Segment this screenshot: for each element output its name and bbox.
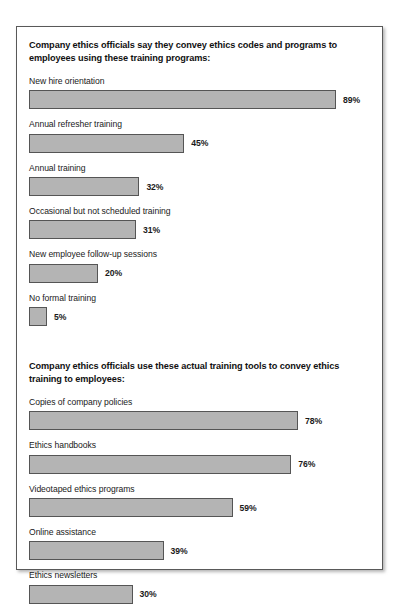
bar-value-label: 78% <box>305 416 322 426</box>
bar-value-label: 76% <box>298 459 315 469</box>
bar-line: 5% <box>29 307 370 326</box>
bar-value-label: 32% <box>146 182 163 192</box>
bar-category-label: Videotaped ethics programs <box>29 484 370 494</box>
bar-fill <box>29 264 98 283</box>
bar-line: 78% <box>29 411 370 430</box>
bar-row: No formal training5% <box>29 293 370 326</box>
bar-value-label: 39% <box>171 546 188 556</box>
section-divider-space <box>29 336 370 360</box>
bar-line: 45% <box>29 134 370 153</box>
bar-value-label: 30% <box>140 589 157 599</box>
bar-value-label: 5% <box>54 312 66 322</box>
bar-value-label: 20% <box>105 268 122 278</box>
bar-row: New employee follow-up sessions20% <box>29 249 370 282</box>
bar-line: 39% <box>29 541 370 560</box>
chart-section-training-tools: Company ethics officials use these actua… <box>29 360 370 604</box>
bar-row: Copies of company policies78% <box>29 397 370 430</box>
bar-fill <box>29 134 184 153</box>
bar-line: 89% <box>29 90 370 109</box>
bar-fill <box>29 585 133 604</box>
bar-fill <box>29 411 298 430</box>
bar-line: 32% <box>29 177 370 196</box>
bar-row: Occasional but not scheduled training31% <box>29 206 370 239</box>
bar-row: Annual refresher training45% <box>29 119 370 152</box>
bar-row: Annual training32% <box>29 163 370 196</box>
bar-category-label: New hire orientation <box>29 76 370 86</box>
bar-row: New hire orientation89% <box>29 76 370 109</box>
bar-value-label: 59% <box>240 503 257 513</box>
bar-fill <box>29 498 233 517</box>
bar-category-label: Annual training <box>29 163 370 173</box>
bar-category-label: Annual refresher training <box>29 119 370 129</box>
bar-value-label: 31% <box>143 225 160 235</box>
bar-category-label: New employee follow-up sessions <box>29 249 370 259</box>
bar-category-label: Online assistance <box>29 527 370 537</box>
bar-category-label: No formal training <box>29 293 370 303</box>
bar-row: Online assistance39% <box>29 527 370 560</box>
bar-category-label: Copies of company policies <box>29 397 370 407</box>
bar-category-label: Ethics handbooks <box>29 440 370 450</box>
bar-category-label: Occasional but not scheduled training <box>29 206 370 216</box>
bar-fill <box>29 177 139 196</box>
section-heading-training-tools: Company ethics officials use these actua… <box>29 360 349 386</box>
bar-line: 76% <box>29 455 370 474</box>
bar-group-training-programs: New hire orientation89%Annual refresher … <box>29 76 370 326</box>
bar-row: Ethics handbooks76% <box>29 440 370 473</box>
bar-fill <box>29 541 164 560</box>
bar-fill <box>29 307 47 326</box>
bar-fill <box>29 90 336 109</box>
bar-value-label: 45% <box>191 138 208 148</box>
bar-line: 59% <box>29 498 370 517</box>
bar-row: Videotaped ethics programs59% <box>29 484 370 517</box>
chart-panel: Company ethics officials say they convey… <box>16 26 383 570</box>
bar-category-label: Ethics newsletters <box>29 570 370 580</box>
bar-fill <box>29 455 291 474</box>
chart-section-training-programs: Company ethics officials say they convey… <box>29 39 370 326</box>
chart-body: Company ethics officials say they convey… <box>17 27 382 604</box>
bar-line: 20% <box>29 264 370 283</box>
bar-group-training-tools: Copies of company policies78%Ethics hand… <box>29 397 370 604</box>
section-heading-training-programs: Company ethics officials say they convey… <box>29 39 349 65</box>
bar-value-label: 89% <box>343 95 360 105</box>
bar-fill <box>29 220 136 239</box>
bar-line: 31% <box>29 220 370 239</box>
bar-row: Ethics newsletters30% <box>29 570 370 603</box>
bar-line: 30% <box>29 585 370 604</box>
